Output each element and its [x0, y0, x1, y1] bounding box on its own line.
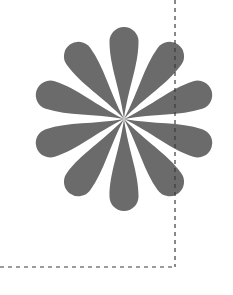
- figure-canvas: [0, 0, 233, 295]
- flower-figure-svg: [0, 0, 233, 295]
